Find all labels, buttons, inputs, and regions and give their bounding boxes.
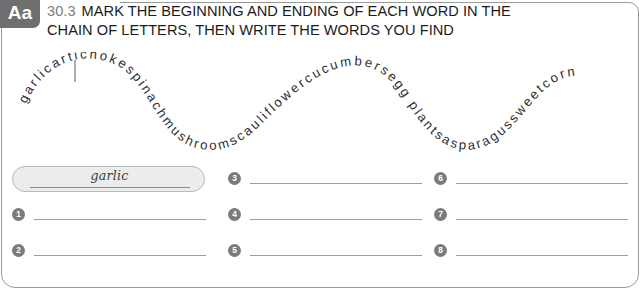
letter-chain-text: garlicartichokespinachmushroomscauliflow… xyxy=(15,52,578,153)
answer-line-8[interactable] xyxy=(456,255,628,256)
example-answer-word: garlic xyxy=(13,168,206,183)
instruction-line-1: 30.3MARK THE BEGINNING AND ENDING OF EAC… xyxy=(47,2,627,21)
example-answer-box: garlic xyxy=(12,166,205,192)
answer-line-2[interactable] xyxy=(34,255,206,256)
answer-bullet-5: 5 xyxy=(228,244,241,257)
answer-bullet-1: 1 xyxy=(12,208,25,221)
answer-item-7[interactable]: 7 xyxy=(434,208,634,232)
aa-badge-icon: Aa xyxy=(0,0,40,28)
answer-item-4[interactable]: 4 xyxy=(228,208,428,232)
answer-bullet-7: 7 xyxy=(434,208,447,221)
answer-item-1[interactable]: 1 xyxy=(12,208,212,232)
exercise-number: 30.3 xyxy=(47,3,76,19)
answer-bullet-4: 4 xyxy=(228,208,241,221)
answers-area: garlic 1 2 3 4 5 6 7 xyxy=(0,160,644,290)
example-answer-rule xyxy=(30,187,190,188)
answer-bullet-6: 6 xyxy=(434,172,447,185)
answer-item-5[interactable]: 5 xyxy=(228,244,428,268)
worksheet-page: Aa 30.3MARK THE BEGINNING AND ENDING OF … xyxy=(0,0,644,293)
answer-line-1[interactable] xyxy=(34,219,206,220)
instruction-text-1: MARK THE BEGINNING AND ENDING OF EACH WO… xyxy=(82,3,511,19)
answer-line-7[interactable] xyxy=(456,219,628,220)
answer-line-6[interactable] xyxy=(456,183,628,184)
answer-item-3[interactable]: 3 xyxy=(228,172,428,196)
answer-line-3[interactable] xyxy=(250,183,422,184)
answer-item-8[interactable]: 8 xyxy=(434,244,634,268)
instruction-block: 30.3MARK THE BEGINNING AND ENDING OF EAC… xyxy=(47,2,627,40)
answer-bullet-2: 2 xyxy=(12,244,25,257)
answer-line-5[interactable] xyxy=(250,255,422,256)
letter-chain-svg: garlicartichokespinachmushroomscauliflow… xyxy=(0,52,644,160)
worksheet-header: Aa 30.3MARK THE BEGINNING AND ENDING OF … xyxy=(0,0,644,52)
answer-item-6[interactable]: 6 xyxy=(434,172,634,196)
answer-line-4[interactable] xyxy=(250,219,422,220)
instruction-line-2: CHAIN OF LETTERS, THEN WRITE THE WORDS Y… xyxy=(47,21,627,40)
answer-bullet-8: 8 xyxy=(434,244,447,257)
answer-bullet-3: 3 xyxy=(228,172,241,185)
letter-chain: garlicartichokespinachmushroomscauliflow… xyxy=(0,52,644,160)
answer-item-2[interactable]: 2 xyxy=(12,244,212,268)
